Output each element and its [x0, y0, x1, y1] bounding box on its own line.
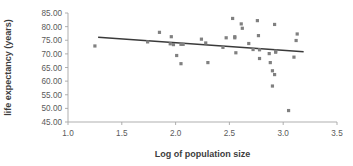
x-axis-title: Log of population size: [155, 149, 251, 159]
x-tick-label: 3.0: [278, 129, 290, 138]
data-point: [231, 17, 234, 20]
chart-figure: 45.0050.0055.0060.0065.0070.0075.0080.00…: [0, 0, 353, 166]
data-point: [204, 41, 207, 44]
data-point: [234, 51, 237, 54]
data-point: [146, 40, 149, 43]
data-point: [172, 43, 175, 46]
y-tick-label: 60.00: [42, 77, 63, 86]
x-tick-label: 2.0: [170, 129, 182, 138]
data-point: [221, 46, 224, 49]
y-tick-label: 70.00: [42, 50, 63, 59]
data-point: [158, 31, 161, 34]
data-point: [251, 48, 254, 51]
data-point: [179, 62, 182, 65]
data-point: [247, 42, 250, 45]
data-point: [169, 42, 172, 45]
data-point: [257, 34, 260, 37]
y-tick-label: 80.00: [42, 23, 63, 32]
data-point: [287, 109, 290, 112]
data-point: [273, 23, 276, 26]
data-point: [268, 52, 271, 55]
y-tick-label: 45.00: [42, 118, 63, 127]
data-point: [258, 48, 261, 51]
data-point: [258, 57, 261, 60]
data-point: [200, 38, 203, 41]
data-point: [271, 69, 274, 72]
data-point: [296, 32, 299, 35]
y-tick-label: 75.00: [42, 36, 63, 45]
x-tick-label: 2.5: [224, 129, 236, 138]
y-tick-label: 55.00: [42, 91, 63, 100]
x-tick-label: 1.5: [116, 129, 128, 138]
data-point: [175, 54, 178, 57]
data-point: [233, 36, 236, 39]
data-point: [170, 35, 173, 38]
data-point: [274, 51, 277, 54]
data-point: [240, 22, 243, 25]
data-point: [269, 61, 272, 64]
data-point: [93, 44, 96, 47]
data-point: [256, 19, 259, 22]
data-point: [182, 43, 185, 46]
data-point: [225, 36, 228, 39]
data-point: [292, 56, 295, 59]
y-tick-label: 65.00: [42, 64, 63, 73]
data-point: [271, 84, 274, 87]
y-tick-label: 85.00: [42, 9, 63, 18]
data-point: [206, 61, 209, 64]
data-point: [273, 73, 276, 76]
x-tick-label: 1.0: [62, 129, 74, 138]
y-axis-title: life expectancy (years): [3, 19, 13, 116]
x-tick-label: 3.5: [331, 129, 343, 138]
data-point: [295, 39, 298, 42]
y-tick-label: 50.00: [42, 104, 63, 113]
scatter-plot: 45.0050.0055.0060.0065.0070.0075.0080.00…: [0, 0, 353, 166]
data-point: [241, 27, 244, 30]
